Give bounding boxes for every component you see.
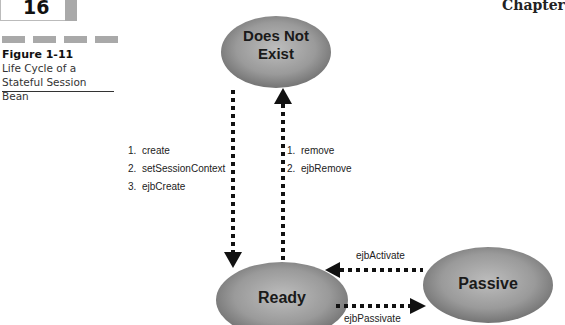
step-number: 2.	[128, 163, 142, 174]
remove-step-2: 2.ejbRemove	[287, 163, 352, 174]
activate-arrow	[325, 262, 423, 278]
activate-label: ejbActivate	[356, 250, 405, 261]
state-label-passive: Passive	[438, 275, 538, 293]
state-label-line: Exist	[226, 45, 326, 63]
step-label: ejbRemove	[301, 163, 352, 174]
step-number: 2.	[287, 163, 301, 174]
create-step-1: 1.create	[128, 145, 170, 156]
create-step-3: 3.ejbCreate	[128, 181, 185, 192]
state-label-ready: Ready	[232, 289, 332, 307]
step-label: create	[142, 145, 170, 156]
create-step-2: 2.setSessionContext	[128, 163, 225, 174]
passivate-label: ejbPassivate	[344, 313, 401, 324]
create-arrow	[224, 90, 242, 268]
state-label-line: Does Not	[226, 27, 326, 45]
state-label-does-not-exist: Does Not Exist	[226, 27, 326, 63]
step-number: 1.	[287, 145, 301, 156]
step-label: remove	[301, 145, 334, 156]
step-label: ejbCreate	[142, 181, 185, 192]
step-label: setSessionContext	[142, 163, 225, 174]
passivate-arrow	[336, 298, 426, 314]
step-number: 1.	[128, 145, 142, 156]
remove-arrow	[274, 88, 292, 260]
remove-step-1: 1.remove	[287, 145, 334, 156]
step-number: 3.	[128, 181, 142, 192]
